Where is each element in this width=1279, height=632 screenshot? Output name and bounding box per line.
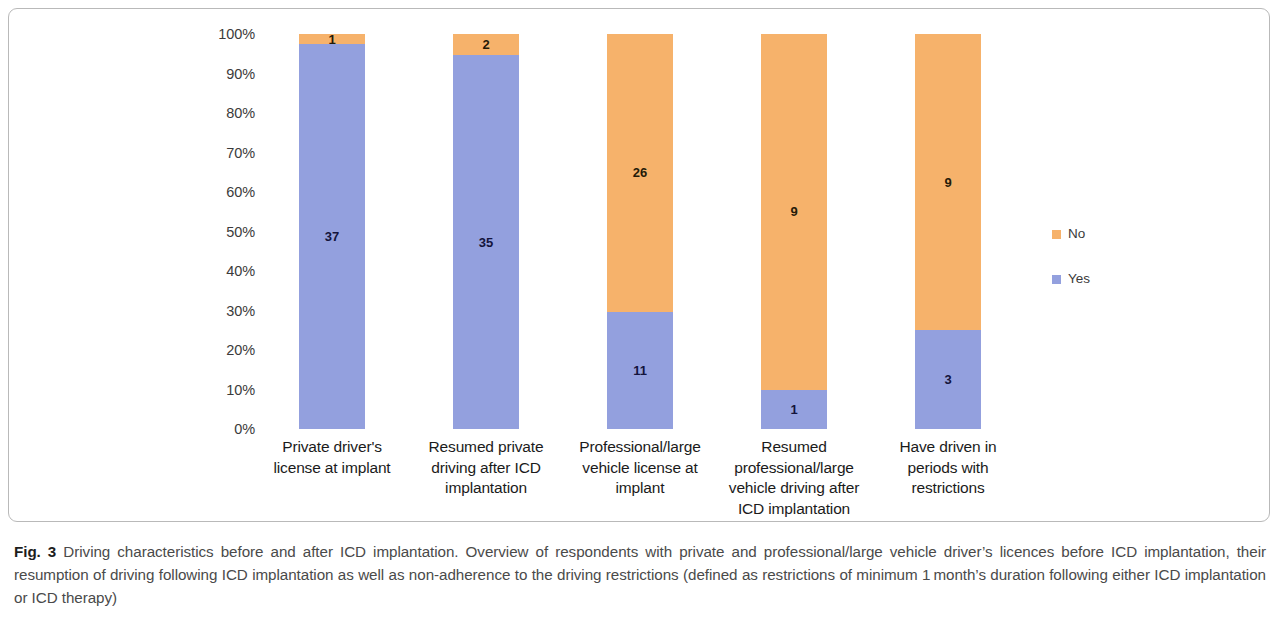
stacked-bar[interactable]: 91 [761,34,827,429]
bar-segment-value-label: 9 [944,176,951,189]
bar-group: 93 [871,34,1025,429]
y-axis-tick-label: 40% [189,263,255,279]
x-axis-category-label: Private driver'slicense at implant [255,437,409,478]
y-axis-tick-label: 80% [189,105,255,121]
bar-segment-value-label: 9 [790,205,797,218]
plot-inner: 13723526119193 [255,34,1025,429]
legend-swatch-icon [1052,275,1061,284]
stacked-bar-chart: 100%90%80%70%60%50%40%30%20%10%0% 137235… [9,9,1271,523]
y-axis-tick-label: 50% [189,224,255,240]
x-axis-category-label-line: implantation [409,478,563,499]
bar-segment-yes[interactable]: 3 [915,330,981,429]
legend-label: No [1068,227,1085,241]
y-axis-tick-label: 30% [189,303,255,319]
x-axis-category-label-line: Resumed [717,437,871,458]
bar-group: 2611 [563,34,717,429]
legend-item-no[interactable]: No [1052,225,1142,243]
bar-segment-yes[interactable]: 35 [453,55,519,429]
legend-swatch-icon [1052,230,1061,239]
legend-item-yes[interactable]: Yes [1052,270,1142,288]
y-axis-tick-label: 70% [189,145,255,161]
bar-segment-no[interactable]: 2 [453,34,519,55]
x-axis-category-label-line: ICD implantation [717,499,871,520]
x-axis-category-label-line: vehicle driving after [717,478,871,499]
x-axis-category-labels: Private driver'slicense at implantResume… [255,437,1025,517]
figure-caption: Fig. 3 Driving characteristics before an… [14,540,1266,609]
stacked-bar[interactable]: 2611 [607,34,673,429]
bar-segment-value-label: 1 [328,34,335,44]
bar-segment-value-label: 11 [633,364,647,377]
x-axis-category-label-line: Resumed private [409,437,563,458]
stacked-bar[interactable]: 93 [915,34,981,429]
bar-group: 235 [409,34,563,429]
bar-segment-yes[interactable]: 37 [299,44,365,429]
y-axis: 100%90%80%70%60%50%40%30%20%10%0% [189,34,255,429]
y-axis-tick-label: 10% [189,382,255,398]
x-axis-category-label-line: license at implant [255,458,409,479]
bar-segment-value-label: 2 [482,38,489,51]
y-axis-tick-label: 90% [189,66,255,82]
x-axis-category-label-line: periods with [871,458,1025,479]
stacked-bar[interactable]: 137 [299,34,365,429]
bar-segment-no[interactable]: 9 [915,34,981,330]
x-axis-category-label-line: driving after ICD [409,458,563,479]
x-axis-category-label-line: vehicle license at [563,458,717,479]
bar-segment-no[interactable]: 9 [761,34,827,390]
bar-segment-value-label: 37 [325,230,339,243]
y-axis-tick-label: 20% [189,342,255,358]
legend-label: Yes [1068,272,1090,286]
bar-segment-value-label: 26 [633,166,647,179]
bar-group: 137 [255,34,409,429]
bar-segment-no[interactable]: 1 [299,34,365,44]
stacked-bar[interactable]: 235 [453,34,519,429]
bar-segment-value-label: 3 [944,373,951,386]
x-axis-category-label-line: implant [563,478,717,499]
x-axis-category-label-line: Have driven in [871,437,1025,458]
bar-segment-value-label: 1 [790,403,797,416]
bar-segment-value-label: 35 [479,236,493,249]
figure-frame: 100%90%80%70%60%50%40%30%20%10%0% 137235… [8,8,1270,522]
x-axis-category-label: Have driven inperiods withrestrictions [871,437,1025,499]
plot-area: 13723526119193 [255,26,1025,429]
y-axis-tick-label: 100% [189,26,255,42]
x-axis-category-label-line: professional/large [717,458,871,479]
figure-caption-text: Driving characteristics before and after… [14,543,1266,606]
x-axis-category-label-line: restrictions [871,478,1025,499]
bar-group: 91 [717,34,871,429]
x-axis-category-label-line: Professional/large [563,437,717,458]
bar-segment-no[interactable]: 26 [607,34,673,312]
y-axis-tick-label: 60% [189,184,255,200]
x-axis-category-label-line: Private driver's [255,437,409,458]
x-axis-category-label: Professional/largevehicle license atimpl… [563,437,717,499]
x-axis-category-label: Resumedprofessional/largevehicle driving… [717,437,871,519]
figure-number: Fig. 3 [14,543,56,560]
bar-segment-yes[interactable]: 11 [607,312,673,429]
chart-legend: NoYes [1052,225,1142,315]
bar-segment-yes[interactable]: 1 [761,390,827,430]
y-axis-tick-label: 0% [189,421,255,437]
x-axis-category-label: Resumed privatedriving after ICDimplanta… [409,437,563,499]
